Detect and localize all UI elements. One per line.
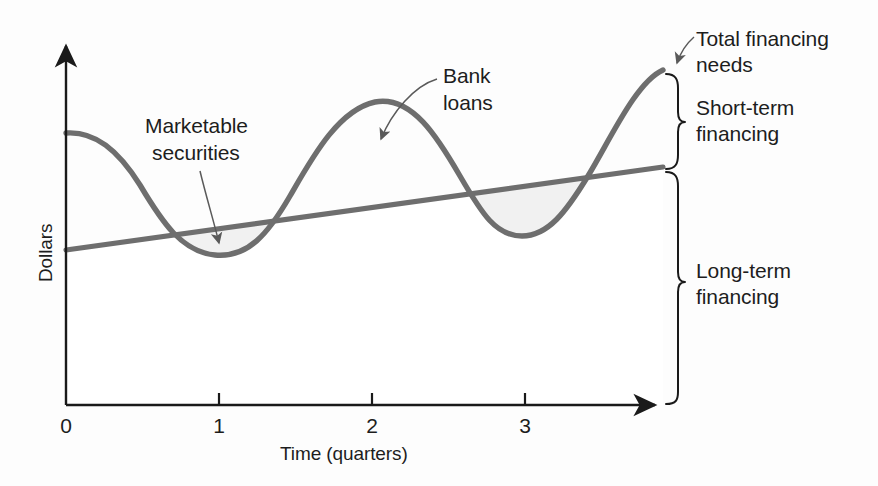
brace-label-short-term-line1: Short-term [696, 95, 794, 121]
brace-label-long-term-line1: Long-term [696, 258, 791, 284]
y-axis-title: Dollars [34, 224, 57, 282]
annotation-bank-loans-line1: Bank [443, 63, 490, 89]
x-tick-label-0: 0 [51, 413, 81, 439]
annotation-total-financing-needs-line1: Total financing [696, 26, 829, 52]
short-term-financing-brace-icon [666, 74, 685, 169]
brace-label-long-term-line2: financing [696, 284, 779, 310]
total-financing-needs-leader-icon [677, 37, 694, 63]
x-tick-label-1: 1 [204, 413, 234, 439]
annotation-total-financing-needs-line2: needs [696, 52, 753, 78]
annotation-marketable-securities-line1: Marketable [145, 113, 248, 139]
x-tick-label-3: 3 [510, 413, 540, 439]
long-term-financing-brace-icon [666, 172, 685, 404]
brace-label-short-term-line2: financing [696, 121, 779, 147]
annotation-bank-loans-line2: loans [443, 90, 493, 116]
chart-figure: Dollars Time (quarters) 0 1 2 3 Marketab… [0, 0, 878, 486]
annotation-marketable-securities-line2: securities [152, 140, 240, 166]
x-axis-title: Time (quarters) [280, 442, 408, 465]
x-tick-label-2: 2 [357, 413, 387, 439]
